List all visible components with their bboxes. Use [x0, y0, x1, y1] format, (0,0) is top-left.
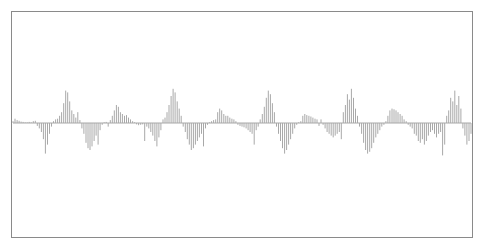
bars-group	[13, 89, 471, 156]
waveform-chart	[0, 0, 482, 250]
